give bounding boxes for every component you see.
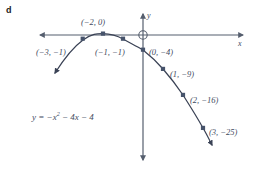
data-point-marker bbox=[141, 48, 145, 52]
data-point-marker bbox=[161, 67, 165, 71]
data-point-marker bbox=[121, 37, 125, 41]
parabola-curve bbox=[55, 34, 212, 145]
equation-label: y = −x2 − 4x − 4 bbox=[32, 113, 94, 122]
figure-panel: d x y (−3, −1) (− bbox=[0, 0, 259, 171]
point-label-3-neg25: (3, −25) bbox=[209, 128, 237, 137]
equation-rhs: − 4x − 4 bbox=[60, 112, 94, 122]
x-axis-label: x bbox=[238, 40, 242, 48]
point-label-neg1-neg1: (−1, −1) bbox=[95, 48, 125, 57]
parabola-graph bbox=[0, 0, 259, 171]
point-label-neg3-neg1: (−3, −1) bbox=[36, 48, 66, 57]
data-point-marker bbox=[101, 32, 105, 36]
equation-lhs: y = −x bbox=[32, 112, 57, 122]
data-point-marker bbox=[201, 126, 205, 130]
y-axis-label: y bbox=[147, 12, 151, 20]
point-label-2-neg16: (2, −16) bbox=[190, 96, 218, 105]
point-label-neg2-0: (−2, 0) bbox=[81, 18, 105, 27]
point-label-1-neg9: (1, −9) bbox=[170, 70, 194, 79]
data-point-marker bbox=[81, 37, 85, 41]
point-label-0-neg4: (0, −4) bbox=[149, 48, 173, 57]
data-point-marker bbox=[181, 93, 185, 97]
